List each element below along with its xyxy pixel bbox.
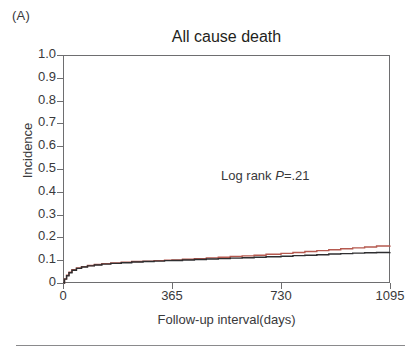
x-tick-label: 730 <box>251 288 311 303</box>
y-tick-label: 0.9 <box>22 69 56 84</box>
x-tick-label: 365 <box>142 288 202 303</box>
figure-panel-a: (A) All cause death Incidence 00.10.20.3… <box>0 0 413 357</box>
log-rank-annotation: Log rank P=.21 <box>221 168 310 183</box>
p-symbol: P <box>275 168 284 183</box>
y-tick-label: 0.5 <box>22 160 56 175</box>
p-value-text: =.21 <box>284 168 310 183</box>
y-tick-label: 0.1 <box>22 251 56 266</box>
y-tick-label: 1.0 <box>22 46 56 61</box>
x-axis-tick-labels: 03657301095 <box>0 288 413 308</box>
y-tick-label: 0 <box>22 274 56 289</box>
y-tick-label: 0.6 <box>22 137 56 152</box>
x-axis-label: Follow-up interval(days) <box>63 312 390 327</box>
series-line-group-2 <box>63 245 390 283</box>
y-tick-label: 0.7 <box>22 114 56 129</box>
chart-title: All cause death <box>63 28 390 46</box>
x-tick-label: 1095 <box>360 288 413 303</box>
y-tick-label: 0.8 <box>22 92 56 107</box>
bottom-divider <box>16 345 405 346</box>
y-tick-label: 0.3 <box>22 206 56 221</box>
x-tick-label: 0 <box>33 288 93 303</box>
log-rank-prefix: Log rank <box>221 168 275 183</box>
y-tick-label: 0.4 <box>22 183 56 198</box>
y-tick-label: 0.2 <box>22 228 56 243</box>
